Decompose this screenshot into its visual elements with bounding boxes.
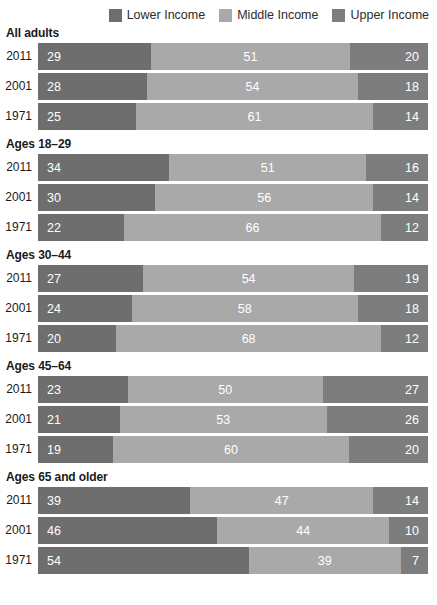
bar-segment-value: 26	[405, 413, 419, 427]
chart-row: 1971256114	[0, 103, 437, 130]
legend-label-1: Middle Income	[237, 9, 318, 22]
bar-segment-value: 66	[246, 221, 260, 235]
bar-segment-upper-income: 26	[327, 406, 428, 433]
bar-segment-upper-income: 7	[401, 547, 428, 574]
chart-row: 2011295120	[0, 43, 437, 70]
group-title: All adults	[0, 22, 437, 43]
bar-segment-middle-income: 50	[128, 376, 323, 403]
bar-segment-value: 24	[47, 302, 61, 316]
stacked-bar: 345116	[38, 154, 428, 181]
legend-label-2: Upper Income	[350, 9, 429, 22]
bar-segment-middle-income: 54	[143, 265, 354, 292]
bar-segment-middle-income: 54	[147, 73, 358, 100]
stacked-bar: 275419	[38, 265, 428, 292]
bar-segment-middle-income: 47	[190, 487, 373, 514]
bar-segment-value: 44	[296, 524, 310, 538]
legend-swatch-upper-income	[332, 9, 345, 22]
stacked-bar: 235027	[38, 376, 428, 403]
bar-segment-value: 16	[405, 161, 419, 175]
bar-segment-upper-income: 14	[373, 184, 428, 211]
bar-segment-value: 54	[242, 272, 256, 286]
stacked-bar: 394714	[38, 487, 428, 514]
bar-segment-middle-income: 68	[116, 325, 381, 352]
chart-row: 2011275419	[0, 265, 437, 292]
row-year-label: 2011	[0, 154, 32, 181]
group-title: Ages 30–44	[0, 244, 437, 265]
bar-segment-middle-income: 56	[155, 184, 373, 211]
row-year-label: 1971	[0, 103, 32, 130]
bar-segment-lower-income: 46	[38, 517, 217, 544]
bar-segment-value: 28	[47, 80, 61, 94]
row-year-label: 1971	[0, 325, 32, 352]
bar-segment-value: 51	[261, 161, 275, 175]
bar-segment-upper-income: 20	[350, 43, 428, 70]
bar-segment-value: 34	[47, 161, 61, 175]
bar-segment-value: 21	[47, 413, 61, 427]
legend-item-1: Middle Income	[219, 9, 318, 22]
chart-row: 2001305614	[0, 184, 437, 211]
bar-segment-middle-income: 44	[217, 517, 389, 544]
bar-segment-middle-income: 61	[136, 103, 374, 130]
row-year-label: 1971	[0, 214, 32, 241]
bar-segment-lower-income: 39	[38, 487, 190, 514]
bar-segment-value: 20	[405, 50, 419, 64]
bar-segment-middle-income: 51	[151, 43, 350, 70]
legend-item-0: Lower Income	[109, 9, 206, 22]
row-year-label: 2011	[0, 265, 32, 292]
row-year-label: 2011	[0, 43, 32, 70]
bar-segment-value: 46	[47, 524, 61, 538]
stacked-bar: 285418	[38, 73, 428, 100]
bar-segment-lower-income: 54	[38, 547, 249, 574]
legend-item-2: Upper Income	[332, 9, 429, 22]
chart-row: 2011345116	[0, 154, 437, 181]
bar-segment-value: 14	[405, 110, 419, 124]
bar-segment-value: 19	[47, 443, 61, 457]
bar-segment-lower-income: 19	[38, 436, 113, 463]
row-year-label: 2001	[0, 406, 32, 433]
stacked-bar: 305614	[38, 184, 428, 211]
bar-segment-value: 12	[405, 221, 419, 235]
group-title: Ages 18–29	[0, 133, 437, 154]
bar-segment-lower-income: 27	[38, 265, 143, 292]
row-year-label: 1971	[0, 436, 32, 463]
stacked-bar: 226612	[38, 214, 428, 241]
chart-group-3: Ages 45–64201123502720012153261971196020	[0, 355, 437, 463]
bar-segment-value: 39	[47, 494, 61, 508]
bar-segment-value: 61	[247, 110, 261, 124]
bar-segment-middle-income: 51	[169, 154, 366, 181]
bar-segment-value: 27	[405, 383, 419, 397]
chart-group-0: All adults201129512020012854181971256114	[0, 22, 437, 130]
bar-segment-lower-income: 21	[38, 406, 120, 433]
stacked-bar: 206812	[38, 325, 428, 352]
bar-segment-value: 20	[47, 332, 61, 346]
chart-row: 2011235027	[0, 376, 437, 403]
legend-swatch-middle-income	[219, 9, 232, 22]
bar-segment-value: 27	[47, 272, 61, 286]
group-title: Ages 65 and older	[0, 466, 437, 487]
chart-row: 2001464410	[0, 517, 437, 544]
bar-segment-lower-income: 25	[38, 103, 136, 130]
bar-segment-middle-income: 66	[124, 214, 381, 241]
bar-segment-lower-income: 23	[38, 376, 128, 403]
bar-segment-value: 20	[405, 443, 419, 457]
bar-segment-lower-income: 30	[38, 184, 155, 211]
bar-segment-value: 54	[47, 554, 61, 568]
row-year-label: 1971	[0, 547, 32, 574]
bar-segment-upper-income: 14	[373, 103, 428, 130]
bar-segment-value: 60	[224, 443, 238, 457]
bar-segment-value: 58	[238, 302, 252, 316]
bar-segment-value: 12	[405, 332, 419, 346]
legend-swatch-lower-income	[109, 9, 122, 22]
stacked-bar: 256114	[38, 103, 428, 130]
bar-segment-value: 14	[405, 494, 419, 508]
bar-segment-middle-income: 53	[120, 406, 327, 433]
chart-row: 2001245818	[0, 295, 437, 322]
chart-row: 2011394714	[0, 487, 437, 514]
chart-group-2: Ages 30–44201127541920012458181971206812	[0, 244, 437, 352]
chart-row: 197154397	[0, 547, 437, 574]
row-year-label: 2001	[0, 295, 32, 322]
bar-segment-middle-income: 39	[249, 547, 401, 574]
bar-segment-upper-income: 18	[358, 73, 428, 100]
stacked-bar: 215326	[38, 406, 428, 433]
bar-segment-value: 22	[47, 221, 61, 235]
